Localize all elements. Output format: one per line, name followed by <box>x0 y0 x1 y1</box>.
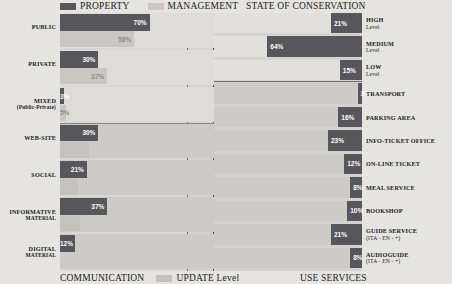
legend-swatch-management <box>148 3 164 10</box>
left-bar-secondary: 58% <box>60 31 134 47</box>
right-row-label-main: AUDIOGUIDE <box>366 251 452 258</box>
left-row-label: INFORMATIVEMATERIAL <box>0 208 56 222</box>
left-bar-primary: 30% <box>60 51 98 68</box>
right-row-label: LOWLevel <box>366 63 452 78</box>
right-bar: 16% <box>338 107 362 127</box>
left-row-band <box>60 234 214 269</box>
right-row-label-sub: Level <box>366 47 452 54</box>
right-row-band <box>214 177 362 197</box>
right-bar: 23% <box>328 130 362 150</box>
right-bar: 8% <box>350 177 362 197</box>
left-row-label-main: SOCIAL <box>0 171 56 178</box>
right-row-label: GUIDE SERVICE(ITA - EN - +) <box>366 227 452 242</box>
right-bar: 3% <box>358 83 362 103</box>
left-bar-secondary: 5% <box>60 105 66 121</box>
left-bar-primary-value: 30% <box>82 56 95 63</box>
right-row-label-main: TRANSPORT <box>366 90 452 97</box>
right-row-label-sub: Level <box>366 24 452 31</box>
left-row-label: PRIVATE <box>0 60 56 67</box>
right-bar-value: 64% <box>270 43 283 50</box>
right-row-label: PARKING AREA <box>366 114 452 121</box>
right-row-label-main: MEDIUM <box>366 40 452 47</box>
right-bar-value: 23% <box>331 137 344 144</box>
left-bar-primary: 12% <box>60 235 75 252</box>
right-row-band <box>214 154 362 174</box>
right-row-label: MEDIUMLevel <box>366 40 452 55</box>
legend-swatch-update <box>156 275 172 282</box>
right-row-label-main: BOOKSHOP <box>366 207 452 214</box>
left-row-label-sub: (Public-Private) <box>0 104 56 111</box>
left-bar-primary: 3% <box>60 88 64 105</box>
right-row-label-main: LOW <box>366 63 452 70</box>
left-bar-primary-value: 3% <box>60 93 69 100</box>
left-bar-primary-value: 12% <box>60 240 73 247</box>
legend-top: PROPERTY MANAGEMENT <box>60 1 238 11</box>
right-row-label: INFO-TICKET OFFICE <box>366 137 452 144</box>
right-row-label: AUDIOGUIDE(ITA - EN - +) <box>366 251 452 266</box>
left-bar-primary: 37% <box>60 198 107 215</box>
right-bar-value: 15% <box>343 67 356 74</box>
right-row-label-main: HIGH <box>366 16 452 23</box>
chart-canvas: PROPERTY MANAGEMENT STATE OF CONSERVATIO… <box>0 0 452 284</box>
right-bar-value: 8% <box>353 184 362 191</box>
left-bar-secondary <box>60 216 80 232</box>
right-row-label: HIGHLevel <box>366 16 452 31</box>
right-bar: 12% <box>344 154 362 174</box>
legend-label-update: UPDATE Level <box>176 273 239 283</box>
left-row-label-main: PUBLIC <box>0 23 56 30</box>
right-row-band <box>214 201 362 221</box>
left-row-label: MIXED(Public-Private) <box>0 97 56 111</box>
left-bar-primary: 30% <box>60 125 98 142</box>
right-row-label-main: INFO-TICKET OFFICE <box>366 137 452 144</box>
left-row-label-sub: MATERIAL <box>0 252 56 259</box>
left-row-label: WEB-SITE <box>0 134 56 141</box>
left-row-label-main: INFORMATIVE <box>0 208 56 215</box>
title-state-of-conservation: STATE OF CONSERVATION <box>246 1 366 11</box>
left-bar-primary-value: 37% <box>91 203 104 210</box>
left-bar-primary: 70% <box>60 14 150 31</box>
legend-bottom: COMMUNICATION UPDATE Level <box>60 273 239 283</box>
left-bar-secondary: 37% <box>60 68 107 84</box>
legend-label-management: MANAGEMENT <box>168 1 239 11</box>
left-bar-secondary-value: 37% <box>91 73 104 80</box>
right-row-label: TRANSPORT <box>366 90 452 97</box>
left-group-separator <box>60 123 214 124</box>
left-row-band <box>60 87 214 122</box>
right-row-label-main: GUIDE SERVICE <box>366 227 452 234</box>
right-row-band <box>214 83 362 103</box>
right-group-separator <box>214 81 362 82</box>
right-row-label: BOOKSHOP <box>366 207 452 214</box>
left-row-label: SOCIAL <box>0 171 56 178</box>
left-row-label-main: DIGITAL <box>0 245 56 252</box>
right-row-band <box>214 248 362 268</box>
left-bar-secondary <box>60 179 78 195</box>
left-row-label-main: PRIVATE <box>0 60 56 67</box>
right-bar: 21% <box>331 13 362 33</box>
right-bar-value: 12% <box>347 160 360 167</box>
right-bar: 21% <box>331 224 362 244</box>
right-bar-value: 8% <box>353 254 362 261</box>
right-bar-value: 10% <box>350 207 363 214</box>
legend-swatch-property <box>60 3 76 10</box>
left-bar-primary-value: 70% <box>134 19 147 26</box>
right-row-label-main: MEAL SERVICE <box>366 184 452 191</box>
right-row-label: MEAL SERVICE <box>366 184 452 191</box>
right-bar-value: 21% <box>334 231 347 238</box>
right-bar: 8% <box>350 248 362 268</box>
legend-label-property: PROPERTY <box>80 1 130 11</box>
right-bar: 15% <box>340 60 362 80</box>
right-bar: 10% <box>347 201 362 221</box>
right-row-label-sub: (ITA - EN - +) <box>366 258 452 265</box>
right-bar-value: 16% <box>341 114 354 121</box>
left-bar-secondary <box>60 142 89 158</box>
left-bar-secondary-value: 5% <box>60 109 69 116</box>
right-row-label-sub: Level <box>366 71 452 78</box>
left-row-label-sub: MATERIAL <box>0 215 56 222</box>
right-bar-value: 21% <box>334 20 347 27</box>
right-row-label: ON-LINE TICKET <box>366 160 452 167</box>
right-row-label-sub: (ITA - EN - +) <box>366 235 452 242</box>
left-row-label: PUBLIC <box>0 23 56 30</box>
left-row-label-main: MIXED <box>0 97 56 104</box>
left-bar-primary-value: 30% <box>82 129 95 136</box>
right-row-label-main: ON-LINE TICKET <box>366 160 452 167</box>
